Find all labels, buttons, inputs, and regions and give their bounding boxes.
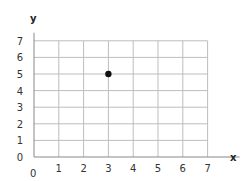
y-tick-label: 4 bbox=[17, 86, 23, 97]
x-tick-label: 2 bbox=[80, 163, 86, 174]
coordinate-grid-chart: 123456701234567 x y 0 bbox=[0, 0, 248, 181]
y-tick-label: 5 bbox=[17, 69, 23, 80]
y-tick-label: 7 bbox=[17, 36, 23, 47]
x-tick-label: 5 bbox=[155, 163, 161, 174]
x-tick-label: 6 bbox=[180, 163, 186, 174]
data-points bbox=[105, 71, 111, 77]
x-tick-label: 4 bbox=[130, 163, 136, 174]
x-tick-label: 1 bbox=[56, 163, 62, 174]
tick-labels: 123456701234567 bbox=[17, 36, 211, 174]
y-axis-label: y bbox=[30, 13, 37, 24]
y-tick-label: 0 bbox=[17, 152, 23, 163]
x-axis-label: x bbox=[230, 152, 237, 163]
y-tick-label: 1 bbox=[17, 135, 23, 146]
grid-lines bbox=[34, 41, 208, 157]
data-point bbox=[105, 71, 111, 77]
y-tick-label: 6 bbox=[17, 52, 23, 63]
x-tick-label: 7 bbox=[204, 163, 210, 174]
origin-label: 0 bbox=[30, 168, 36, 179]
axes bbox=[34, 33, 240, 157]
x-tick-label: 3 bbox=[105, 163, 111, 174]
y-tick-label: 3 bbox=[17, 102, 23, 113]
y-tick-label: 2 bbox=[17, 119, 23, 130]
